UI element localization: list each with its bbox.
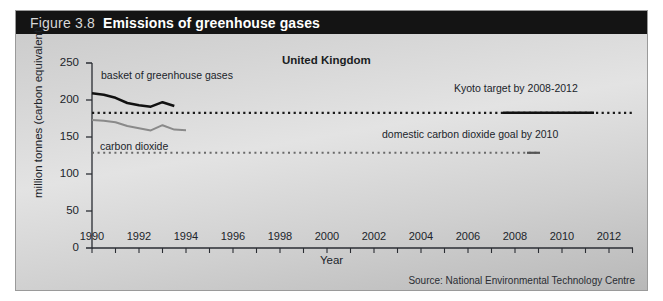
x-tick-1994: 1994 (164, 230, 208, 242)
x-tick-1998: 1998 (258, 230, 302, 242)
annotation-kyoto-target: Kyoto target by 2008-2012 (454, 82, 578, 94)
chart-area: million tonnes (carbon equivalent) 250 2… (16, 34, 647, 291)
y-axis-tickmarks (86, 100, 92, 211)
x-tick-2000: 2000 (305, 230, 349, 242)
x-tick-1990: 1990 (70, 230, 114, 242)
y-axis-spine (86, 63, 92, 248)
country-label: United Kingdom (282, 54, 371, 66)
x-tick-2006: 2006 (446, 230, 490, 242)
series-carbon-dioxide (92, 120, 186, 130)
annotation-basket: basket of greenhouse gases (101, 69, 233, 81)
figure-header: Figure 3.8 Emissions of greenhouse gases (16, 11, 647, 34)
x-tick-2008: 2008 (493, 230, 537, 242)
x-tick-2012: 2012 (587, 230, 631, 242)
x-axis-title: Year (16, 254, 647, 266)
x-tick-2002: 2002 (352, 230, 396, 242)
x-tick-1996: 1996 (211, 230, 255, 242)
x-axis-ticklabels: 1990 1992 1994 1996 1998 2000 2002 2004 … (16, 230, 647, 254)
series-basket-greenhouse-gases (92, 93, 174, 106)
x-tick-2010: 2010 (540, 230, 584, 242)
source-note: Source: National Environmental Technolog… (408, 275, 635, 286)
x-tick-2004: 2004 (399, 230, 443, 242)
x-tick-1992: 1992 (117, 230, 161, 242)
annotation-carbon-dioxide: carbon dioxide (100, 140, 168, 152)
figure-panel: Figure 3.8 Emissions of greenhouse gases… (15, 10, 648, 291)
annotation-domestic-goal: domestic carbon dioxide goal by 2010 (382, 128, 558, 140)
figure-title: Emissions of greenhouse gases (103, 15, 320, 31)
